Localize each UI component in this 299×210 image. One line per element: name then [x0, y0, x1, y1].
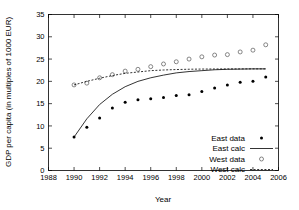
y-tick-label: 0 [40, 166, 44, 175]
plot-canvas: 1988199019921994199619982000200220042006… [0, 0, 299, 210]
y-tick-label: 30 [36, 32, 44, 41]
x-tick-label: 1994 [117, 173, 134, 182]
data-point [264, 75, 267, 78]
y-tick-label: 10 [36, 122, 44, 131]
data-point [85, 126, 88, 129]
data-point [226, 83, 229, 86]
data-point [188, 93, 191, 96]
data-point [251, 80, 254, 83]
legend-label: West calc [210, 165, 245, 174]
x-tick-label: 2004 [245, 173, 262, 182]
x-tick-label: 2000 [193, 173, 210, 182]
data-point [149, 97, 152, 100]
y-tick-label: 35 [36, 10, 44, 19]
legend-marker-filled-circle-icon [260, 137, 263, 140]
data-point [200, 90, 203, 93]
legend-label: West data [209, 155, 245, 164]
x-tick-label: 1990 [66, 173, 83, 182]
data-point [98, 116, 101, 119]
y-tick-label: 15 [36, 99, 44, 108]
data-point [136, 98, 139, 101]
data-point [213, 87, 216, 90]
data-point [124, 101, 127, 104]
y-tick-label: 25 [36, 55, 44, 64]
data-point [162, 96, 165, 99]
x-tick-label: 1998 [168, 173, 185, 182]
legend-label: East data [211, 134, 245, 143]
x-axis-label: Year [155, 195, 172, 204]
data-point [239, 81, 242, 84]
legend-label: East calc [213, 144, 245, 153]
x-tick-label: 1992 [91, 173, 108, 182]
x-tick-label: 1996 [142, 173, 159, 182]
data-point [111, 107, 114, 110]
y-axis-label: GDP per capita (in multiples of 1000 EUR… [4, 17, 13, 167]
data-point [175, 94, 178, 97]
y-tick-label: 20 [36, 77, 44, 86]
x-tick-label: 2002 [219, 173, 236, 182]
y-tick-label: 5 [40, 144, 44, 153]
x-tick-label: 2006 [270, 173, 287, 182]
gdp-per-capita-chart: 1988199019921994199619982000200220042006… [0, 0, 299, 210]
